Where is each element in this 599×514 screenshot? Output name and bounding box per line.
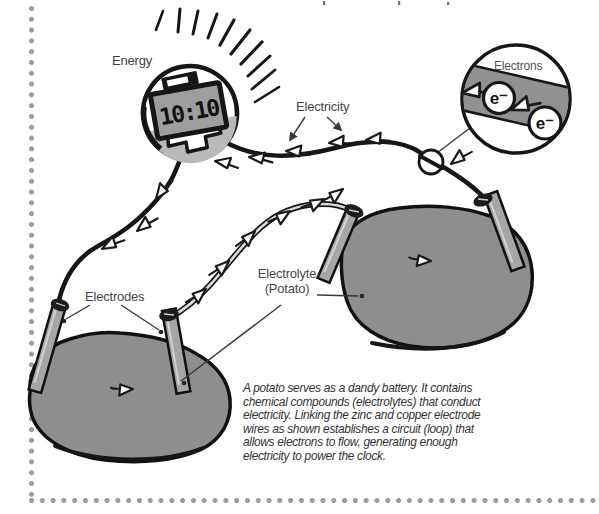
electrons-label: Electrons: [494, 59, 542, 73]
electricity-label: Electricity: [296, 99, 349, 114]
digital-clock: 10:10: [136, 59, 245, 171]
svg-text:e⁻: e⁻: [536, 114, 554, 133]
page-crop-marks: [323, 1, 449, 5]
figure-caption: A potato serves as a dandy battery. It c…: [243, 382, 505, 464]
magnified-point-circle: [419, 150, 443, 174]
energy-label: Energy: [112, 53, 152, 68]
svg-text:e⁻: e⁻: [490, 89, 508, 108]
potato-battery-diagram: 10:10: [0, 0, 599, 514]
wire-top: [227, 142, 485, 199]
electrolyte-label-line1: Electrolyte: [240, 266, 334, 281]
wire-left: [59, 157, 181, 300]
electrolyte-label-line2: (Potato): [240, 281, 334, 296]
electrolyte-label: Electrolyte (Potato): [240, 266, 334, 296]
electron-particle: e⁻: [529, 107, 561, 139]
electrodes-label: Electrodes: [85, 289, 144, 304]
electron-particle: e⁻: [484, 83, 515, 114]
left-potato: [29, 332, 230, 461]
